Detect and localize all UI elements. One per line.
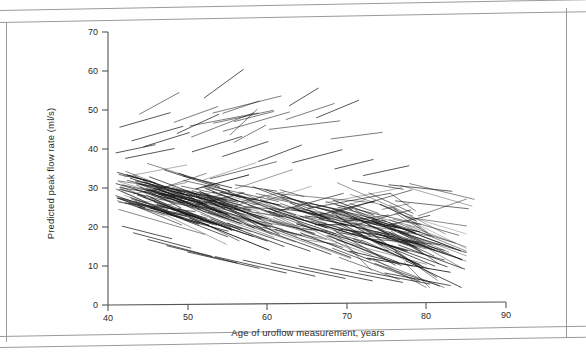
- trajectory-line: [188, 252, 260, 268]
- x-tick-label-70: 70: [335, 311, 359, 321]
- trajectory-line: [317, 100, 359, 118]
- trajectory-line: [410, 184, 474, 200]
- trajectory-line: [293, 150, 342, 163]
- trajectory-line: [269, 121, 340, 129]
- trajectory-line: [213, 96, 281, 113]
- trajectory-line: [215, 257, 286, 273]
- trajectory-line: [227, 223, 310, 251]
- trajectory-line: [144, 133, 189, 147]
- y-tick-label-10: 10: [74, 261, 98, 271]
- trajectory-line: [116, 145, 155, 153]
- trajectory-line: [331, 132, 382, 139]
- trajectory-line: [389, 185, 452, 191]
- trajectory-line: [147, 163, 185, 175]
- y-tick-label-40: 40: [74, 144, 98, 154]
- trajectory-line: [364, 166, 409, 176]
- trajectory-line: [174, 107, 218, 123]
- trajectory-line: [167, 246, 237, 263]
- trajectory-line: [286, 104, 334, 120]
- trajectory-line: [132, 126, 183, 140]
- y-axis-title: Predicted peak flow rate (ml/s): [45, 64, 56, 284]
- trajectory-line: [271, 263, 345, 279]
- trajectory-line: [192, 137, 241, 152]
- trajectory-line: [126, 149, 175, 159]
- trajectory-line: [280, 222, 372, 255]
- trajectory-line: [258, 145, 301, 161]
- trajectory-line: [204, 69, 243, 97]
- trajectory-line: [140, 93, 179, 115]
- trajectory-line: [177, 114, 218, 133]
- x-tick-label-50: 50: [176, 312, 200, 322]
- y-tick-label-70: 70: [74, 27, 98, 37]
- trajectory-line: [120, 113, 170, 127]
- x-tick-label-40: 40: [96, 313, 120, 323]
- trajectory-line: [133, 233, 190, 248]
- trajectory-line: [385, 273, 450, 285]
- x-tick-label-90: 90: [494, 310, 518, 320]
- trajectory-line: [236, 185, 277, 191]
- y-tick-label-50: 50: [74, 105, 98, 115]
- y-tick-label-60: 60: [74, 66, 98, 76]
- trajectory-line: [148, 239, 212, 256]
- x-tick-label-80: 80: [414, 311, 438, 321]
- trajectory-line: [223, 142, 268, 157]
- y-tick-label-20: 20: [74, 222, 98, 232]
- trajectory-line: [299, 266, 372, 281]
- y-tick-label-0: 0: [74, 300, 98, 310]
- trajectory-line: [289, 88, 318, 106]
- x-tick-label-60: 60: [255, 312, 279, 322]
- trajectory-line: [335, 160, 373, 169]
- x-axis-line: [108, 302, 506, 305]
- y-axis-ticks: [102, 32, 108, 305]
- x-axis-title: Age of uroflow measurement, years: [108, 327, 508, 338]
- trajectory-line: [203, 163, 256, 180]
- trajectory-line: [243, 260, 315, 276]
- trajectory-line: [234, 125, 266, 142]
- y-tick-label-30: 30: [74, 183, 98, 193]
- trajectory-line: [124, 165, 187, 177]
- trajectory-lines: [116, 69, 474, 287]
